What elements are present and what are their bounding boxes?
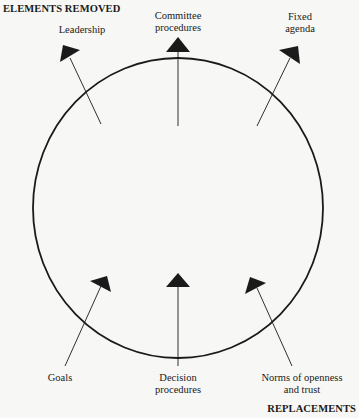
arrow-goals — [65, 276, 111, 366]
label-norms-line2: and trust — [246, 384, 358, 396]
label-fixed-line2: agenda — [270, 23, 330, 35]
diagram-canvas: ELEMENTS REMOVED REPLACEMENTS Leadership… — [0, 0, 359, 418]
label-goals-line1: Goals — [35, 372, 85, 384]
label-decision-line1: Decision — [138, 372, 218, 384]
arrow-norms-of-openness — [245, 277, 292, 366]
label-committee-line2: procedures — [138, 22, 218, 34]
label-decision-line2: procedures — [138, 384, 218, 396]
label-norms-of-openness: Norms of openness and trust — [246, 372, 358, 396]
elements-removed-heading: ELEMENTS REMOVED — [3, 3, 120, 14]
label-leadership: Leadership — [37, 24, 127, 36]
label-leadership-line1: Leadership — [37, 24, 127, 36]
label-fixed-line1: Fixed — [270, 11, 330, 23]
label-fixed-agenda: Fixed agenda — [270, 11, 330, 35]
label-committee-procedures: Committee procedures — [138, 10, 218, 34]
label-decision-procedures: Decision procedures — [138, 372, 218, 396]
label-goals: Goals — [35, 372, 85, 384]
diagram-graphic — [0, 0, 359, 418]
arrow-decision-procedures — [166, 273, 190, 366]
label-committee-line1: Committee — [138, 10, 218, 22]
label-norms-line1: Norms of openness — [246, 372, 358, 384]
replacements-heading: REPLACEMENTS — [267, 403, 356, 414]
arrow-committee-procedures — [166, 37, 190, 126]
